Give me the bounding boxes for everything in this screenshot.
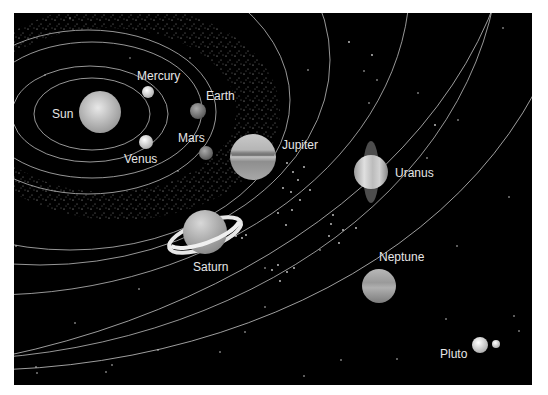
label-sun: Sun xyxy=(52,107,73,121)
label-saturn: Saturn xyxy=(193,260,228,274)
label-uranus: Uranus xyxy=(395,166,434,180)
planet-earth xyxy=(190,103,206,119)
label-jupiter: Jupiter xyxy=(282,138,318,152)
planet-mercury xyxy=(142,86,154,98)
sun xyxy=(79,91,121,133)
planet-uranus xyxy=(354,141,388,203)
moon-charon xyxy=(492,340,500,348)
planet-pluto xyxy=(472,337,488,353)
label-earth: Earth xyxy=(206,89,235,103)
planet-mars xyxy=(199,146,213,160)
planet-neptune xyxy=(362,269,396,303)
label-pluto: Pluto xyxy=(440,347,468,361)
planet-jupiter xyxy=(230,134,276,180)
label-mercury: Mercury xyxy=(137,69,180,83)
label-mars: Mars xyxy=(178,131,205,145)
planet-venus xyxy=(139,135,153,149)
diagram-canvas: Sun Mercury Venus Earth Mars Jupiter Sat… xyxy=(14,13,532,385)
label-venus: Venus xyxy=(124,152,157,166)
solar-system-diagram: Sun Mercury Venus Earth Mars Jupiter Sat… xyxy=(14,13,532,385)
label-neptune: Neptune xyxy=(379,250,425,264)
planet-saturn xyxy=(165,210,245,260)
